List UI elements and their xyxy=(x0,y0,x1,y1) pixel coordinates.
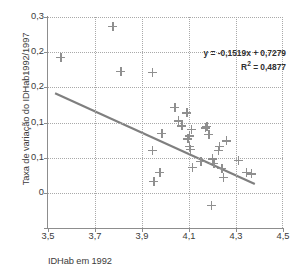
data-point-marker xyxy=(196,157,205,166)
x-axis-tick-label: 4,3 xyxy=(221,232,251,241)
gridline-vertical xyxy=(142,17,143,228)
y-axis-tick-label: 0,3 xyxy=(14,12,44,21)
regression-equation-annotation: y = -0,1519x + 0,7279 R2 = 0,4877 xyxy=(176,47,286,73)
gridline-horizontal xyxy=(48,123,283,124)
data-point-marker xyxy=(148,68,157,77)
data-point-marker xyxy=(177,121,186,130)
gridline-horizontal xyxy=(48,193,283,194)
r-squared-value: = 0,4877 xyxy=(251,62,286,72)
r-squared-text: R2 = 0,4877 xyxy=(176,59,286,73)
data-point-marker xyxy=(187,125,196,134)
scatter-chart: Taxa de variação do IDHab1992/1997 0,30,… xyxy=(0,0,298,275)
data-point-marker xyxy=(149,177,158,186)
gridline-horizontal xyxy=(48,17,283,18)
data-point-marker xyxy=(157,129,166,138)
x-axis-tick-label: 3,7 xyxy=(80,232,110,241)
data-point-marker xyxy=(247,169,256,178)
x-axis-tick-label: 3,9 xyxy=(127,232,157,241)
data-point-marker xyxy=(186,145,195,154)
y-axis-tick-label: 0,2 xyxy=(14,47,44,56)
y-axis-tick-label: 0 xyxy=(14,188,44,197)
x-axis-tick-label: 4,5 xyxy=(268,232,298,241)
gridline-horizontal xyxy=(48,158,283,159)
data-point-marker xyxy=(148,146,157,155)
data-point-marker xyxy=(56,53,65,62)
gridline-horizontal xyxy=(48,87,283,88)
y-axis-tick-label: 0,1 xyxy=(14,153,44,162)
x-axis-tick-label: 4,1 xyxy=(174,232,204,241)
data-point-marker xyxy=(182,108,191,117)
x-axis-title: IDHab em 1992 xyxy=(48,256,112,266)
data-point-marker xyxy=(116,67,125,76)
data-point-marker xyxy=(108,22,117,31)
x-axis-tick-label: 3,5 xyxy=(33,232,63,241)
y-axis-tick-label: 0,1 xyxy=(14,118,44,127)
y-axis-tick-label: 0,2 xyxy=(14,82,44,91)
data-point-marker xyxy=(155,168,164,177)
x-axis-line xyxy=(47,228,284,229)
data-point-marker xyxy=(222,136,231,145)
y-axis-tick-mark xyxy=(44,158,48,159)
data-point-marker xyxy=(207,201,216,210)
y-axis-tick-mark xyxy=(44,123,48,124)
y-axis-tick-mark xyxy=(44,87,48,88)
data-point-marker xyxy=(234,156,243,165)
y-axis-tick-mark xyxy=(44,17,48,18)
regression-equation-text: y = -0,1519x + 0,7279 xyxy=(176,47,286,59)
data-point-marker xyxy=(204,130,213,139)
data-point-marker xyxy=(219,173,228,182)
y-axis-tick-mark xyxy=(44,193,48,194)
gridline-vertical xyxy=(95,17,96,228)
data-point-marker xyxy=(170,103,179,112)
y-axis-tick-mark xyxy=(44,52,48,53)
